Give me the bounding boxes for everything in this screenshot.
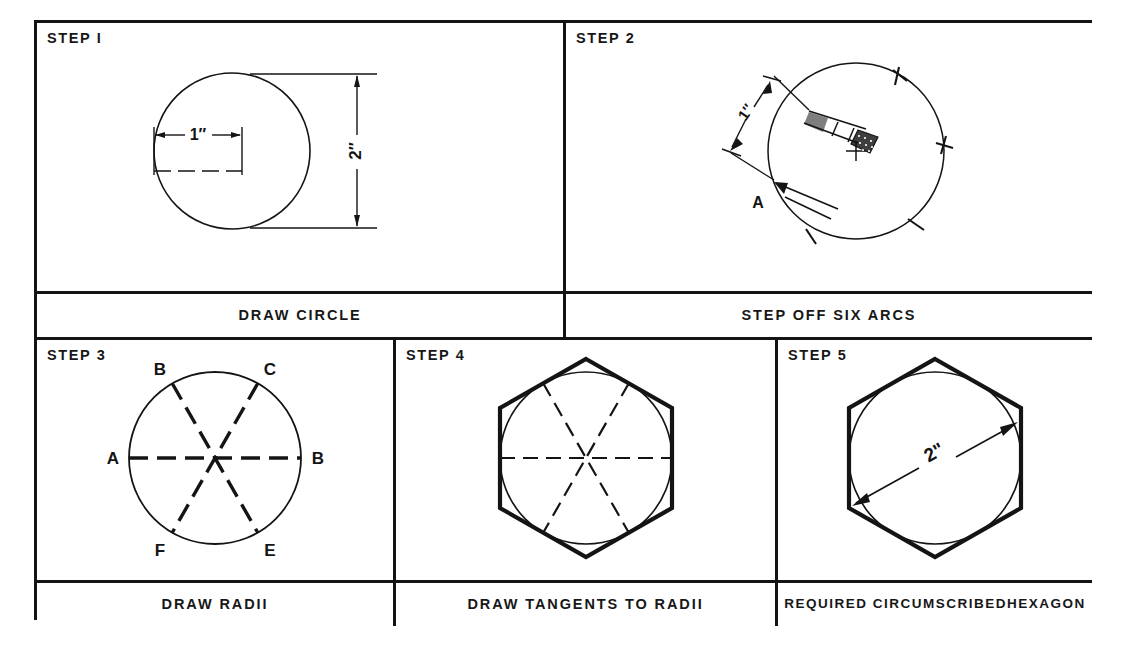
- drawing-sheet-frame: STEP I 1″: [34, 20, 1092, 620]
- radius-dimension-text: 1″: [190, 126, 207, 143]
- vertex-label-c: C: [264, 360, 276, 379]
- arc-tick-3: [908, 219, 924, 230]
- step-1-caption: DRAW CIRCLE: [37, 291, 563, 337]
- start-point-label: A: [752, 194, 764, 211]
- across-flats-dimension-text: 2": [920, 438, 947, 466]
- span-dimension-line-a: [754, 85, 768, 107]
- panel-step-5: STEP 5 2" REQUIRED CIRCUMSCRIBED HEXAGON: [778, 340, 1092, 626]
- diameter-dimension-text: 2″: [346, 142, 365, 160]
- step-3-caption: DRAW RADII: [37, 580, 393, 626]
- arc-tick-1: [893, 70, 907, 81]
- arc-tick-5: [895, 67, 899, 85]
- step-5-caption: REQUIRED CIRCUMSCRIBED HEXAGON: [778, 580, 1092, 626]
- step-1-artwork: 1″ 2″: [37, 23, 563, 337]
- panel-step-3: STEP 3 A B C B E F DRAW RADII: [37, 340, 393, 626]
- vertex-label-a: A: [107, 449, 119, 468]
- compass-upper-shading: [804, 112, 828, 132]
- radii-dashed-lines: [129, 383, 301, 533]
- vertex-label-b-top: B: [154, 360, 166, 379]
- step-4-caption: DRAW TANGENTS TO RADII: [396, 580, 775, 626]
- compass-lead-tip: [851, 130, 878, 153]
- step-5-caption-line-2: HEXAGON: [1007, 596, 1086, 613]
- span-arrow-lower: [730, 138, 743, 151]
- radii-dashed-lines: [500, 383, 672, 533]
- step-2-artwork: A: [566, 23, 1092, 337]
- vertex-label-b-right: B: [312, 449, 324, 468]
- panel-step-2: STEP 2 A: [566, 23, 1092, 337]
- vertex-label-e: E: [264, 541, 275, 560]
- diameter-arrow-bottom: [354, 215, 360, 227]
- panel-step-4: STEP 4 DRAW TANGENTS TO RADII: [396, 340, 775, 626]
- arc-tick-4: [806, 229, 816, 244]
- step-5-caption-line-1: REQUIRED CIRCUMSCRIBED: [784, 596, 1007, 613]
- panel-step-1: STEP I 1″: [37, 23, 563, 337]
- circle-outline: [154, 73, 310, 229]
- span-tick-upper: [763, 76, 781, 81]
- compass-needle-leg-lower: [785, 197, 831, 219]
- across-flats-arrow-left: [852, 493, 870, 506]
- span-dimension-text: 1″: [734, 101, 757, 123]
- span-arrow-upper: [763, 81, 772, 94]
- vertex-label-f: F: [155, 541, 165, 560]
- diameter-arrow-top: [354, 75, 360, 87]
- step-2-caption: STEP OFF SIX ARCS: [566, 291, 1092, 337]
- radius-arrow-right: [231, 132, 241, 138]
